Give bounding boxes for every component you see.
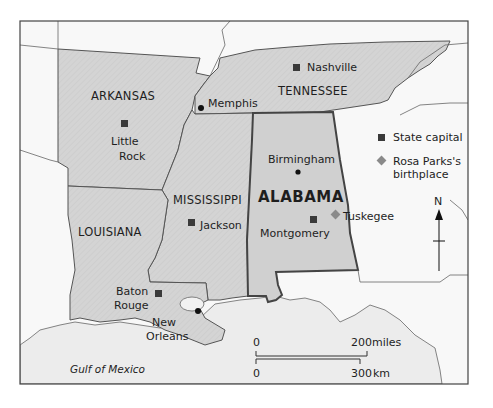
label-nashville: Nashville (307, 61, 357, 74)
scale-km-start: 0 (253, 367, 260, 380)
scale-miles-start: 0 (253, 336, 260, 349)
scale-miles-unit: miles (372, 336, 402, 349)
label-gulf-of-mexico: Gulf of Mexico (70, 363, 145, 375)
legend-birthplace-label-1: Rosa Parks's (393, 155, 461, 168)
city-marker-birmingham (295, 169, 300, 174)
legend-capital-icon (378, 134, 385, 141)
label-jackson: Jackson (199, 219, 242, 232)
scale-km-unit: km (373, 367, 390, 380)
label-louisiana: LOUISIANA (78, 225, 142, 239)
capital-marker-nashville (293, 64, 300, 71)
label-baton-rouge-1: Baton (116, 285, 148, 298)
label-baton-rouge-2: Rouge (114, 299, 149, 312)
capital-marker-jackson (188, 219, 195, 226)
city-marker-memphis (198, 105, 204, 111)
capital-marker-baton-rouge (155, 290, 162, 297)
label-new-orleans-1: New (152, 316, 176, 329)
label-memphis: Memphis (208, 97, 258, 110)
lake-pontchartrain (180, 297, 204, 311)
label-little-rock-2: Rock (119, 150, 146, 163)
legend-capital-label: State capital (393, 131, 463, 144)
map-canvas: ARKANSAS TENNESSEE MISSISSIPPI LOUISIANA… (0, 0, 493, 408)
label-birmingham: Birmingham (268, 153, 335, 166)
label-little-rock-1: Little (111, 135, 139, 148)
legend-birthplace-label-2: birthplace (393, 168, 449, 181)
label-new-orleans-2: Orleans (146, 330, 189, 343)
label-tuskegee: Tuskegee (342, 210, 394, 223)
label-mississippi: MISSISSIPPI (173, 193, 242, 207)
capital-marker-montgomery (310, 216, 317, 223)
label-arkansas: ARKANSAS (91, 89, 155, 103)
scale-miles-end: 200 (351, 336, 372, 349)
label-alabama: ALABAMA (258, 188, 344, 206)
city-marker-new-orleans (195, 308, 201, 314)
label-montgomery: Montgomery (260, 227, 330, 240)
capital-marker-little-rock (121, 120, 128, 127)
scale-km-end: 300 (351, 367, 372, 380)
compass-n-label: N (434, 195, 442, 208)
label-tennessee: TENNESSEE (277, 84, 348, 98)
